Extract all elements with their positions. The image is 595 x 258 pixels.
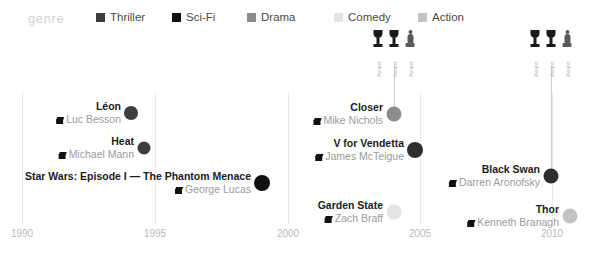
trophy-icon: [373, 30, 384, 49]
director-name: George Lucas: [185, 183, 251, 195]
data-point-label: Heat Michael Mann: [59, 136, 134, 160]
trophy-icon: [530, 30, 541, 49]
comedy-swatch: [334, 13, 343, 22]
thriller-swatch: [96, 13, 105, 22]
film-director: Mike Nichols: [313, 115, 383, 127]
director-name: James McTeigue: [325, 150, 404, 162]
clapperboard-icon: [325, 216, 332, 223]
legend-item-sci-fi[interactable]: Sci-Fi: [172, 11, 215, 23]
gridline-1995: [155, 92, 156, 224]
gridline-2000: [288, 92, 289, 224]
director-name: Mike Nichols: [323, 114, 383, 126]
award-label: Award: [391, 51, 397, 77]
legend-item-comedy[interactable]: Comedy: [334, 11, 391, 23]
film-director: George Lucas: [25, 184, 251, 196]
film-title: Black Swan: [449, 164, 540, 176]
award-connector-line: [551, 66, 552, 176]
award-item: Award: [405, 30, 416, 77]
data-point[interactable]: [124, 106, 138, 120]
legend-item-thriller[interactable]: Thriller: [96, 11, 145, 23]
director-name: Kenneth Branagh: [477, 216, 559, 228]
director-name: Zach Braff: [335, 212, 383, 224]
film-director: Luc Besson: [56, 114, 121, 126]
data-point-label: Léon Luc Besson: [56, 101, 121, 125]
axis-tick-2010: 2010: [541, 228, 563, 239]
award-icon-row: Award Award Award: [373, 30, 416, 77]
data-point-label: Garden State Zach Braff: [318, 200, 383, 224]
axis-tick-2005: 2005: [409, 228, 431, 239]
award-item: Award: [530, 30, 541, 77]
award-label: Award: [548, 51, 554, 77]
award-label: Award: [407, 51, 413, 77]
award-item: Award: [373, 30, 384, 77]
award-item: Award: [389, 30, 400, 77]
axis-tick-1990: 1990: [11, 228, 33, 239]
award-label: Award: [375, 51, 381, 77]
clapperboard-icon: [467, 220, 474, 227]
clapperboard-icon: [449, 180, 456, 187]
axis-tick-2000: 2000: [277, 228, 299, 239]
trophy-icon: [546, 30, 557, 49]
drama-swatch: [247, 13, 256, 22]
film-director: Michael Mann: [59, 149, 134, 161]
legend-label-thriller: Thriller: [110, 11, 145, 23]
award-item: Award: [562, 30, 573, 77]
data-point[interactable]: [387, 107, 402, 122]
legend-label-comedy: Comedy: [348, 11, 391, 23]
director-name: Darren Aronofsky: [459, 176, 540, 188]
data-point-label: Thor Kenneth Branagh: [467, 204, 559, 228]
award-item: Award: [546, 30, 557, 77]
clapperboard-icon: [56, 117, 63, 124]
data-point[interactable]: [138, 142, 151, 155]
data-point[interactable]: [563, 209, 578, 224]
film-title: Heat: [59, 136, 134, 148]
clapperboard-icon: [59, 152, 66, 159]
film-title: Léon: [56, 101, 121, 113]
film-title: Thor: [467, 204, 559, 216]
clapperboard-icon: [315, 154, 322, 161]
film-director: Darren Aronofsky: [449, 177, 540, 189]
director-name: Luc Besson: [66, 113, 121, 125]
clapperboard-icon: [313, 118, 320, 125]
film-director: James McTeigue: [315, 151, 404, 163]
film-title: Closer: [313, 102, 383, 114]
legend-label-drama: Drama: [261, 11, 296, 23]
data-point-label: Black Swan Darren Aronofsky: [449, 164, 540, 188]
data-point-label: V for Vendetta James McTeigue: [315, 138, 404, 162]
legend-label-action: Action: [432, 11, 464, 23]
data-point[interactable]: [387, 205, 402, 220]
clapperboard-icon: [175, 187, 182, 194]
gridline-1990: [22, 92, 23, 224]
legend: genre Thriller Sci-Fi Drama Comedy Actio…: [0, 0, 595, 32]
data-point-label: Closer Mike Nichols: [313, 102, 383, 126]
data-point[interactable]: [544, 169, 559, 184]
gridline-2005: [420, 92, 421, 224]
data-point-label: Star Wars: Episode I — The Phantom Menac…: [25, 171, 251, 195]
data-point[interactable]: [254, 175, 270, 191]
award-label: Award: [564, 51, 570, 77]
oscar-icon: [405, 30, 416, 49]
data-point[interactable]: [407, 142, 423, 158]
film-title: Garden State: [318, 200, 383, 212]
axis-tick-1995: 1995: [144, 228, 166, 239]
legend-label-sci-fi: Sci-Fi: [186, 11, 215, 23]
director-name: Michael Mann: [69, 148, 134, 160]
legend-title: genre: [28, 11, 64, 26]
trophy-icon: [389, 30, 400, 49]
film-title: Star Wars: Episode I — The Phantom Menac…: [25, 171, 251, 183]
award-label: Award: [532, 51, 538, 77]
scatter-plot: 1990 1995 2000 2005 2010 Award Award Awa…: [0, 32, 595, 258]
legend-item-drama[interactable]: Drama: [247, 11, 296, 23]
film-title: V for Vendetta: [315, 138, 404, 150]
film-director: Kenneth Branagh: [467, 217, 559, 229]
sci-fi-swatch: [172, 13, 181, 22]
award-icon-row: Award Award Award: [530, 30, 573, 77]
action-swatch: [418, 13, 427, 22]
oscar-icon: [562, 30, 573, 49]
legend-item-action[interactable]: Action: [418, 11, 464, 23]
film-director: Zach Braff: [318, 213, 383, 225]
